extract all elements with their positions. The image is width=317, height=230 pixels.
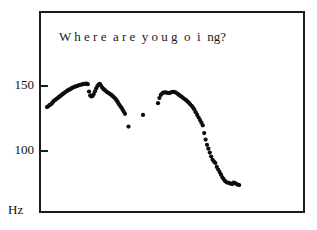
data-point — [86, 82, 90, 86]
data-point — [201, 123, 205, 127]
data-points-group — [45, 82, 241, 188]
data-point — [237, 183, 241, 187]
data-point — [206, 147, 210, 151]
data-point — [208, 151, 212, 155]
y-axis-tick-label-100: 100 — [2, 143, 34, 156]
data-point — [141, 113, 145, 117]
figure-container: W h e r e a r e y o u g o i ng? 150 100 … — [0, 0, 317, 230]
data-point — [123, 112, 127, 116]
data-point — [205, 143, 209, 147]
y-axis-tick-label-150: 150 — [2, 78, 34, 91]
data-point — [204, 138, 208, 142]
y-axis-unit-label: Hz — [8, 203, 23, 216]
data-point — [87, 89, 91, 93]
scatter-plot-layer — [39, 11, 305, 213]
data-point — [126, 125, 130, 129]
data-point — [156, 101, 160, 105]
data-point — [202, 131, 206, 135]
data-point — [213, 161, 217, 165]
